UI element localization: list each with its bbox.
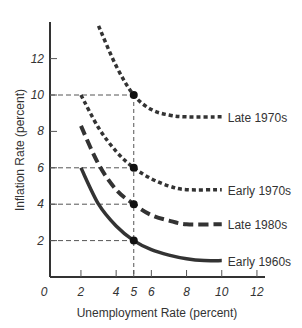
label-late-1970s: Late 1970s xyxy=(228,111,287,125)
y-axis-title: Inflation Rate (percent) xyxy=(13,89,27,211)
data-point xyxy=(130,200,138,208)
data-point xyxy=(130,237,138,245)
x-tick-label: 6 xyxy=(148,285,155,299)
curve-late-1970s xyxy=(99,26,222,117)
y-tick-label: 12 xyxy=(31,52,45,66)
label-late-1980s: Late 1980s xyxy=(228,218,287,232)
x-tick-label: 0 xyxy=(41,285,48,299)
y-tick-label: 8 xyxy=(37,124,44,138)
x-tick-label: 2 xyxy=(77,285,85,299)
x-tick-label: 5 xyxy=(130,285,137,299)
x-tick-label: 8 xyxy=(183,285,190,299)
y-tick-label: 10 xyxy=(31,88,45,102)
curve-early-1960s xyxy=(81,168,222,261)
label-early-1960s: Early 1960s xyxy=(228,255,291,269)
plot-area: 024568101224681012Late 1970sEarly 1970sL… xyxy=(13,22,291,320)
phillips-curve-chart: 024568101224681012Late 1970sEarly 1970sL… xyxy=(0,0,302,328)
x-axis-title: Unemployment Rate (percent) xyxy=(77,306,238,320)
data-point xyxy=(130,164,138,172)
y-tick-label: 6 xyxy=(37,161,44,175)
data-point xyxy=(130,91,138,99)
y-tick-label: 4 xyxy=(37,197,44,211)
x-tick-label: 10 xyxy=(215,285,229,299)
y-tick-label: 2 xyxy=(36,234,44,248)
x-tick-label: 12 xyxy=(250,285,264,299)
x-tick-label: 4 xyxy=(113,285,120,299)
label-early-1970s: Early 1970s xyxy=(228,184,291,198)
